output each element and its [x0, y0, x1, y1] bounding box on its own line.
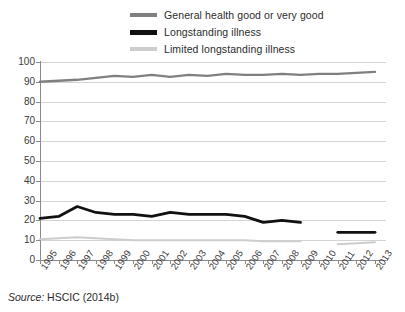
- source-value: HSCIC (2014b): [44, 291, 119, 303]
- series-line-1: [40, 207, 301, 223]
- source-label: Source:: [8, 291, 44, 303]
- chart-figure: General health good or very good Longsta…: [0, 0, 405, 312]
- series-layer: [0, 0, 405, 312]
- series-line-0: [40, 72, 375, 82]
- series-line-2: [40, 237, 301, 241]
- source-note: Source: HSCIC (2014b): [8, 291, 119, 303]
- series-line-2: [338, 242, 375, 244]
